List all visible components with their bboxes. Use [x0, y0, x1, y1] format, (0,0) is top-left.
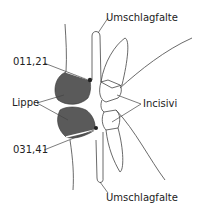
lower-fold — [96, 132, 103, 183]
leader-incisor-upper — [117, 95, 141, 104]
upper-lip-contour — [65, 24, 66, 72]
label-incisivi: Incisivi — [143, 99, 177, 109]
lower-lip — [58, 107, 96, 138]
label-umschlagfalte-top: Umschlagfalte — [106, 13, 178, 23]
label-tooth-lower: 031,41 — [13, 145, 48, 155]
upper-fold — [92, 32, 101, 83]
leader-incisor-lower — [112, 104, 141, 122]
label-umschlagfalte-bottom: Umschlagfalte — [106, 193, 178, 203]
label-tooth-upper: 011,21 — [13, 57, 48, 67]
lower-incisor — [106, 128, 123, 172]
upper-lip — [55, 72, 91, 104]
label-lippe: Lippe — [12, 98, 39, 108]
lower-lip-contour — [70, 140, 73, 190]
